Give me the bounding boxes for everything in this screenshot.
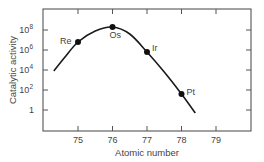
y-axis: 1102104106108 bbox=[19, 23, 251, 115]
x-tick-label: 79 bbox=[211, 135, 221, 145]
activity-curve bbox=[54, 27, 195, 113]
x-tick-label: 78 bbox=[176, 135, 186, 145]
x-tick-label: 77 bbox=[142, 135, 152, 145]
point-label-ir: Ir bbox=[152, 43, 158, 53]
x-tick-label: 75 bbox=[73, 135, 83, 145]
y-tick-label: 106 bbox=[19, 43, 33, 55]
point-label-re: Re bbox=[60, 36, 72, 46]
x-tick-label: 76 bbox=[107, 135, 117, 145]
data-point-ir bbox=[144, 49, 150, 55]
y-tick-label: 102 bbox=[19, 83, 33, 95]
point-label-pt: Pt bbox=[187, 87, 196, 97]
x-axis-title: Atomic number bbox=[115, 147, 179, 158]
plot-border bbox=[43, 9, 251, 131]
chart: 7576777879 1102104106108 ReOsIrPt Atomic… bbox=[0, 0, 264, 162]
data-point-re bbox=[75, 39, 81, 45]
point-label-os: Os bbox=[110, 30, 122, 40]
y-tick-label: 1 bbox=[29, 105, 34, 115]
x-axis: 7576777879 bbox=[73, 9, 221, 145]
y-axis-title: Catalytic activity bbox=[7, 36, 18, 104]
y-tick-label: 108 bbox=[19, 23, 33, 35]
data-point-pt bbox=[179, 91, 185, 97]
plot-frame bbox=[43, 9, 251, 131]
y-tick-label: 104 bbox=[19, 63, 33, 75]
